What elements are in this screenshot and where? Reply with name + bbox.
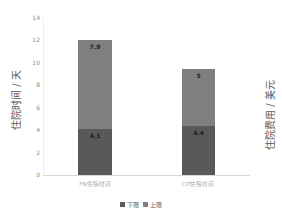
- bar-value-label: 4.1: [78, 132, 112, 139]
- y-axis-line: [43, 18, 44, 175]
- bar-value-label: 5: [182, 72, 215, 79]
- legend-swatch-icon: [120, 202, 125, 207]
- bar-value-label: 7.9: [78, 43, 112, 50]
- bar-segment-upper: 5: [182, 69, 215, 126]
- bar-fn: 7.9 4.1: [78, 40, 112, 175]
- y-axis-title-left: 住院时间 / 天: [8, 70, 23, 130]
- x-tick-label: FN住院时间: [65, 180, 125, 188]
- y-tick: 14: [28, 15, 40, 21]
- bar-segment-lower: 4.1: [78, 129, 112, 175]
- bar-cit: 5 4.4: [182, 69, 215, 175]
- y-tick: 0: [28, 172, 40, 178]
- bar-segment-upper: 7.9: [78, 40, 112, 129]
- y-tick: 10: [28, 60, 40, 66]
- legend-item-upper: 上限: [143, 200, 162, 209]
- legend: 下限 上限: [0, 200, 282, 209]
- y-tick: 2: [28, 150, 40, 156]
- y-tick: 4: [28, 127, 40, 133]
- stacked-bar-chart: 住院时间 / 天 住院费用 / 美元 0 2 4 6 8 10 12 14 7.…: [0, 0, 282, 218]
- y-tick: 12: [28, 37, 40, 43]
- x-axis-line: [43, 175, 250, 176]
- bar-segment-lower: 4.4: [182, 126, 215, 175]
- legend-label: 上限: [150, 200, 162, 209]
- legend-label: 下限: [127, 200, 139, 209]
- bar-value-label: 4.4: [182, 129, 215, 136]
- legend-item-lower: 下限: [120, 200, 139, 209]
- x-tick-label: CIT住院时间: [168, 180, 228, 188]
- y-axis-title-right: 住院费用 / 美元: [262, 80, 277, 150]
- y-tick: 8: [28, 82, 40, 88]
- legend-swatch-icon: [143, 202, 148, 207]
- y-tick: 6: [28, 105, 40, 111]
